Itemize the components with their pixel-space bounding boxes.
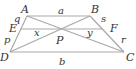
label-a-side: a	[58, 5, 64, 16]
diagonal-bd	[10, 16, 90, 52]
label-y: y	[86, 27, 93, 38]
label-c: C	[126, 51, 135, 64]
label-b-vertex: B	[90, 3, 99, 16]
label-p-point: P	[55, 34, 64, 47]
label-p-side: p	[4, 34, 11, 45]
label-d: D	[0, 51, 9, 64]
label-x: x	[34, 27, 40, 38]
trapezoid-diagram: A a B q s E F x y P p r D b C	[0, 0, 136, 69]
label-a-vertex: A	[20, 3, 29, 16]
label-f: F	[109, 22, 118, 35]
label-s: s	[101, 13, 106, 24]
label-r: r	[121, 34, 127, 45]
segment-bc	[90, 16, 124, 52]
label-b-side: b	[59, 56, 65, 67]
